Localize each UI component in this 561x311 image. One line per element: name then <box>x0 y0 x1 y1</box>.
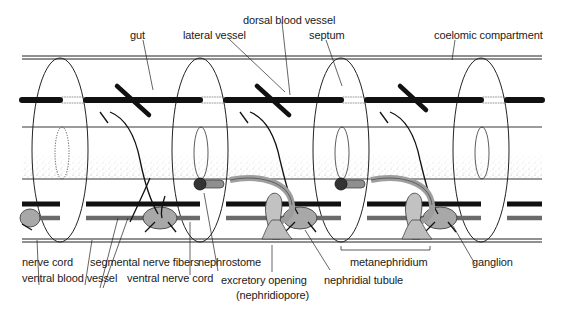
gut-tube <box>22 127 542 179</box>
label-ventral-blood-vessel: ventral blood vessel <box>22 272 117 284</box>
label-dorsal-blood-vessel: dorsal blood vessel <box>243 14 335 26</box>
label-lateral-vessel: lateral vessel <box>183 29 246 41</box>
label-septum: septum <box>309 29 344 41</box>
metanephridium-1 <box>194 178 292 239</box>
label-coelomic-compartment: coelomic compartment <box>434 29 543 41</box>
label-nephridiopore: (nephridiopore) <box>236 289 309 301</box>
label-nephridial-tubule: nephridial tubule <box>324 274 403 286</box>
metanephridium-bracket <box>341 246 430 250</box>
metanephridium-2 <box>335 178 432 239</box>
label-excretory-opening: excretory opening <box>221 274 307 286</box>
label-ventral-nerve-cord: ventral nerve cord <box>127 272 213 284</box>
label-nerve-cord: nerve cord <box>22 256 73 268</box>
label-ganglion: ganglion <box>472 256 513 268</box>
label-segmental-nerve-fibers: segmental nerve fibers <box>90 256 199 268</box>
label-metanephridium: metanephridium <box>350 256 427 268</box>
dorsal-blood-vessel <box>22 97 542 103</box>
label-gut: gut <box>130 29 145 41</box>
label-nephrostome: nephrostome <box>198 256 261 268</box>
